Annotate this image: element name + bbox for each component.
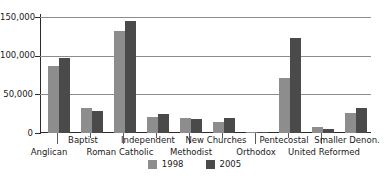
bar-orthodox-2005 — [257, 132, 268, 133]
bar-baptist-2005 — [92, 111, 103, 133]
bar-roman-catholic-1998 — [114, 31, 125, 133]
bar-group-united-reformed — [312, 17, 334, 133]
bars-layer — [40, 17, 371, 133]
bar-group-smaller-denon — [345, 17, 367, 133]
bar-pentecostal-2005 — [290, 38, 301, 133]
y-axis-tick-label-150000: 150,000 — [0, 13, 40, 22]
bar-group-baptist — [81, 17, 103, 133]
bar-united-reformed-2005 — [323, 129, 334, 133]
bar-group-independent — [147, 17, 169, 133]
bar-smaller-denon-1998 — [345, 113, 356, 133]
bar-new-churches-1998 — [213, 122, 224, 133]
legend-label-2005: 2005 — [220, 160, 242, 169]
bar-methodist-2005 — [191, 119, 202, 133]
bar-independent-1998 — [147, 117, 158, 133]
y-axis-tick-label-50000: 50,000 — [0, 90, 40, 99]
bar-baptist-1998 — [81, 108, 92, 133]
bar-group-anglican — [48, 17, 70, 133]
bar-group-pentecostal — [279, 17, 301, 133]
bar-group-methodist — [180, 17, 202, 133]
bar-group-new-churches — [213, 17, 235, 133]
bar-anglican-2005 — [59, 58, 70, 133]
chart-legend: 1998 2005 — [0, 160, 389, 169]
bar-roman-catholic-2005 — [125, 21, 136, 133]
x-axis-label-smaller-denon: Smaller Denon. — [306, 135, 388, 145]
legend-swatch-2005 — [206, 160, 215, 169]
legend-label-1998: 1998 — [162, 160, 184, 169]
y-axis-tick-label-0: 0 — [0, 129, 40, 138]
bar-chart: 150,000 100,000 50,000 0 — [0, 0, 389, 179]
legend-swatch-1998 — [148, 160, 157, 169]
bar-new-churches-2005 — [224, 118, 235, 133]
bar-anglican-1998 — [48, 66, 59, 133]
legend-item-1998: 1998 — [148, 160, 184, 169]
bar-group-roman-catholic — [114, 17, 136, 133]
bar-smaller-denon-2005 — [356, 108, 367, 133]
bar-independent-2005 — [158, 114, 169, 133]
y-axis-tick-label-100000: 100,000 — [0, 51, 40, 60]
x-axis-label-united-reformed: United Reformed — [272, 147, 376, 157]
bar-methodist-1998 — [180, 118, 191, 133]
legend-item-2005: 2005 — [206, 160, 242, 169]
bar-group-orthodox — [246, 17, 268, 133]
bar-pentecostal-1998 — [279, 78, 290, 133]
